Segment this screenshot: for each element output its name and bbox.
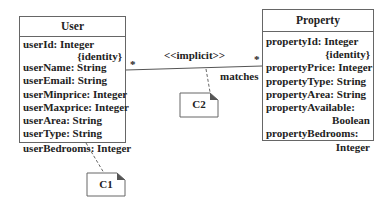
attr-user-id-tag: {identity} <box>23 51 122 61</box>
attr-user-bedrooms: userBedrooms: Integer <box>23 142 122 155</box>
class-user-attributes: userId: Integer {identity} userName: Str… <box>20 37 125 157</box>
class-property-attributes: propertyId: Integer {identity} propertyP… <box>263 32 373 155</box>
attr-property-id-tag: {identity} <box>266 48 370 61</box>
attr-user-area: userArea: String <box>23 114 122 127</box>
attr-property-available-type: Boolean <box>266 114 370 127</box>
attr-property-available: propertyAvailable: <box>266 101 370 114</box>
attr-property-bedrooms-type: Integer <box>266 141 370 154</box>
class-property-name: Property <box>263 10 373 32</box>
multiplicity-property: * <box>254 53 260 65</box>
class-property[interactable]: Property propertyId: Integer {identity} … <box>262 9 374 141</box>
association-stereotype: <<implicit>> <box>164 49 225 61</box>
attr-property-bedrooms: propertyBedrooms: <box>266 127 370 140</box>
class-user[interactable]: User userId: Integer {identity} userName… <box>19 16 126 143</box>
attr-property-area: propertyArea: String <box>266 88 370 101</box>
attr-user-email: userEmail: String <box>23 74 122 87</box>
attr-property-id: propertyId: Integer <box>266 35 370 48</box>
note-c1[interactable]: C1 <box>87 178 125 190</box>
association-name: matches <box>220 70 259 82</box>
attr-user-name: userName: String <box>23 61 122 74</box>
attr-user-type: userType: String <box>23 127 122 140</box>
class-user-name: User <box>20 17 125 37</box>
multiplicity-user: * <box>130 58 136 70</box>
attr-property-price: propertyPrice: Integer <box>266 61 370 74</box>
note-c2[interactable]: C2 <box>180 98 218 110</box>
attr-user-minprice: userMinprice: Integer <box>23 88 122 101</box>
note-c2-anchor <box>206 69 210 92</box>
attr-user-maxprice: userMaxprice: Integer <box>23 101 122 114</box>
attr-property-type: propertyType: String <box>266 75 370 88</box>
